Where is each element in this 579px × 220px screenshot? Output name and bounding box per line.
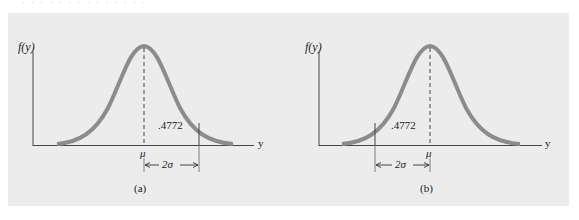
x-axis-label-b: y: [545, 138, 551, 149]
mu-label-b: μ: [426, 148, 432, 159]
mu-label-a: μ: [140, 148, 146, 159]
y-axis-label-b: f(y): [305, 41, 322, 53]
caption-b: (b): [420, 183, 433, 194]
two-sigma-label-b: 2σ: [395, 159, 406, 170]
area-label-b: .4772: [391, 120, 416, 131]
two-sigma-label-a: 2σ: [162, 159, 173, 170]
normal-curve-b: [342, 46, 520, 144]
x-axis-label-a: y: [258, 138, 264, 149]
caption-a: (a): [134, 183, 146, 194]
area-label-a: .4772: [158, 120, 183, 131]
figure-graphics: [0, 0, 579, 220]
y-axis-label-a: f(y): [18, 41, 35, 53]
normal-curve-a: [57, 46, 233, 144]
